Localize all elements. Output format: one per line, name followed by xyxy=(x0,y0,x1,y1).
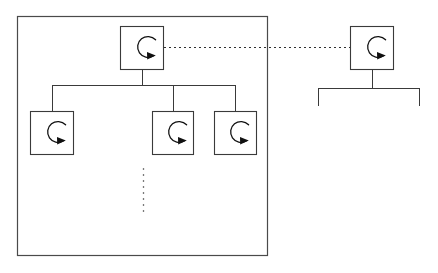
diagram-svg xyxy=(0,0,438,273)
diagram-canvas xyxy=(0,0,438,273)
root-node-box[interactable] xyxy=(121,27,164,70)
child-node-1-box[interactable] xyxy=(31,112,74,155)
external-node[interactable] xyxy=(351,27,394,70)
child-node-2[interactable] xyxy=(153,112,194,155)
main-group-connectors xyxy=(52,70,236,111)
external-node-connectors xyxy=(318,70,420,106)
child-node-1[interactable] xyxy=(31,112,74,155)
child-node-2-box[interactable] xyxy=(153,112,194,155)
child-node-3[interactable] xyxy=(215,112,257,155)
external-node-box[interactable] xyxy=(351,27,394,70)
child-node-3-box[interactable] xyxy=(215,112,257,155)
root-node[interactable] xyxy=(121,27,164,70)
